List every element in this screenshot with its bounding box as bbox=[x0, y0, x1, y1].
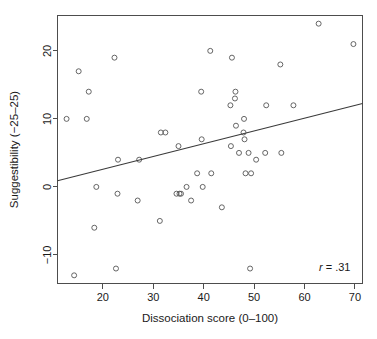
data-point bbox=[199, 89, 204, 94]
data-point bbox=[264, 103, 269, 108]
data-points-layer bbox=[64, 21, 356, 278]
data-point bbox=[135, 198, 140, 203]
data-point bbox=[116, 157, 121, 162]
y-tick-label-20: 20 bbox=[42, 45, 54, 57]
data-point bbox=[72, 273, 77, 278]
data-point bbox=[228, 144, 233, 149]
x-tick-label-60: 60 bbox=[298, 291, 310, 303]
data-point bbox=[112, 55, 117, 60]
correlation-annotation: r= .31 bbox=[319, 261, 350, 273]
data-point bbox=[184, 184, 189, 189]
x-axis-title: Dissociation score (0–100) bbox=[142, 312, 278, 324]
data-point bbox=[278, 62, 283, 67]
x-tick-label-70: 70 bbox=[349, 291, 361, 303]
data-point bbox=[209, 171, 214, 176]
data-point bbox=[115, 191, 120, 196]
data-point bbox=[219, 205, 224, 210]
data-point bbox=[246, 150, 251, 155]
data-point bbox=[200, 184, 205, 189]
x-tick-label-20: 20 bbox=[97, 291, 109, 303]
data-point bbox=[76, 69, 81, 74]
data-point bbox=[236, 150, 241, 155]
data-point bbox=[195, 171, 200, 176]
data-point bbox=[84, 116, 89, 121]
data-point bbox=[243, 171, 248, 176]
y-axis-title: Suggestibility (−25–25) bbox=[8, 91, 20, 208]
correlation-value: = .31 bbox=[326, 261, 351, 273]
data-point bbox=[254, 157, 259, 162]
data-point bbox=[291, 103, 296, 108]
regression-line bbox=[58, 104, 363, 181]
x-tick-label-50: 50 bbox=[248, 291, 260, 303]
regression-line-layer bbox=[58, 104, 363, 181]
plot-box bbox=[58, 16, 363, 284]
plot-frame bbox=[58, 16, 363, 284]
data-point bbox=[242, 116, 247, 121]
data-point bbox=[228, 103, 233, 108]
y-tick-label-0: 0 bbox=[42, 184, 54, 190]
x-tick-label-30: 30 bbox=[147, 291, 159, 303]
data-point bbox=[233, 123, 238, 128]
annotation-layer: r= .31 bbox=[319, 261, 350, 273]
data-point bbox=[86, 89, 91, 94]
scatter-plot-svg: 203040506070 −1001020 Dissociation score… bbox=[0, 0, 377, 339]
data-point bbox=[157, 218, 162, 223]
data-point bbox=[64, 116, 69, 121]
chart-figure: 203040506070 −1001020 Dissociation score… bbox=[0, 0, 377, 339]
x-tick-label-40: 40 bbox=[198, 291, 210, 303]
data-point bbox=[113, 266, 118, 271]
data-point bbox=[249, 171, 254, 176]
data-point bbox=[94, 184, 99, 189]
data-point bbox=[248, 266, 253, 271]
y-tick-label--10: −10 bbox=[42, 246, 54, 265]
correlation-symbol: r bbox=[319, 261, 324, 273]
data-point bbox=[316, 21, 321, 26]
data-point bbox=[229, 55, 234, 60]
y-tick-label-10: 10 bbox=[42, 113, 54, 125]
data-point bbox=[263, 150, 268, 155]
data-point bbox=[351, 42, 356, 47]
data-point bbox=[92, 225, 97, 230]
data-point bbox=[176, 144, 181, 149]
data-point bbox=[208, 48, 213, 53]
x-axis-ticks: 203040506070 bbox=[97, 284, 361, 303]
data-point bbox=[242, 137, 247, 142]
y-axis-ticks: −1001020 bbox=[42, 45, 58, 265]
data-point bbox=[233, 89, 238, 94]
data-point bbox=[279, 150, 284, 155]
data-point bbox=[199, 137, 204, 142]
data-point bbox=[189, 198, 194, 203]
data-point bbox=[232, 96, 237, 101]
